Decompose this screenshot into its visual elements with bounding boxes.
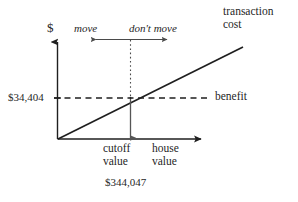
- x-axis-label-cutoff-value: cutoff value: [103, 142, 130, 168]
- benefit-label: benefit: [215, 90, 247, 103]
- region-label-move: move: [74, 22, 97, 34]
- x-axis-label-house-value: house value: [152, 142, 179, 168]
- intersection-point: [130, 97, 132, 99]
- y-tick-label: $34,404: [8, 91, 44, 103]
- y-axis-label: $: [47, 21, 54, 36]
- transaction-cost-label: transaction cost: [223, 5, 273, 31]
- figure-container: $ move don't move transaction cost benef…: [0, 0, 298, 202]
- region-label-dont-move: don't move: [129, 22, 177, 34]
- cutoff-amount-label: $344,047: [105, 176, 146, 188]
